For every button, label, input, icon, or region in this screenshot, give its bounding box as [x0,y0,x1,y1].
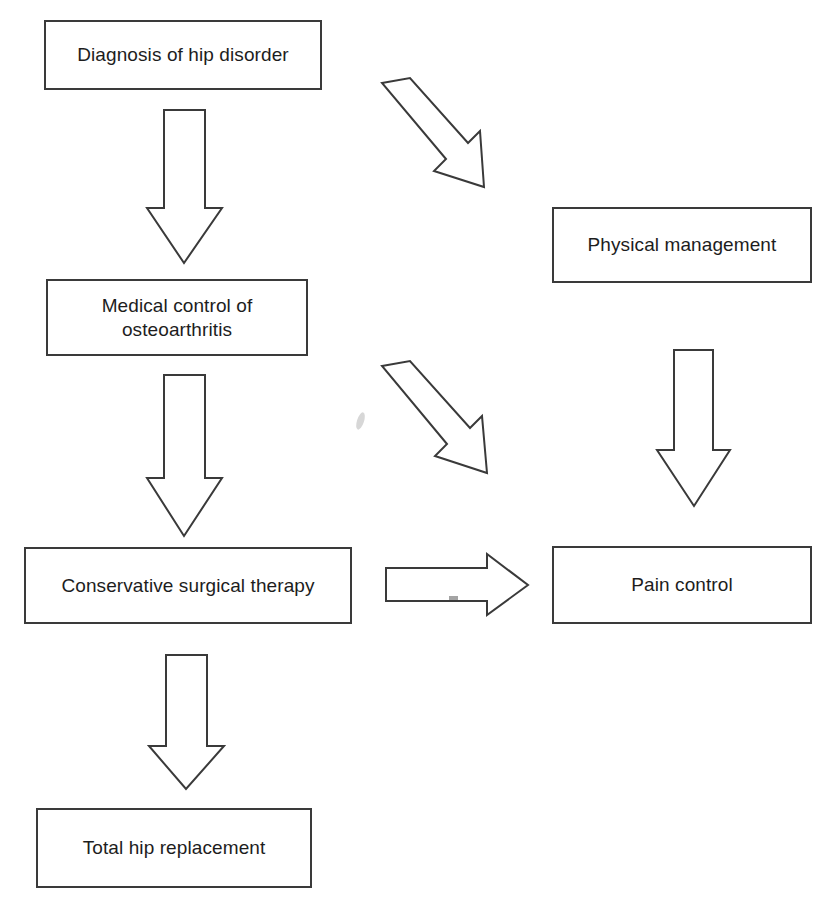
arrow-physical-management-to-pain-control [657,350,730,506]
arrow-conservative-surgical-therapy-to-pain-control [386,554,528,615]
flowchart-diagram: Diagnosis of hip disorder Physical manag… [0,0,836,920]
node-total-hip-replacement: Total hip replacement [36,808,312,888]
arrow-conservative-surgical-therapy-to-total-hip-replacement [149,655,224,789]
node-conservative-surgical-therapy-label: Conservative surgical therapy [61,574,314,597]
node-diagnosis-label: Diagnosis of hip disorder [77,43,289,66]
arrow-medical-control-to-conservative-surgical-therapy [147,375,222,536]
arrow-diagnosis-to-physical-management [382,78,484,187]
node-physical-management-label: Physical management [588,233,777,256]
scan-artifact-speck [354,411,366,430]
node-pain-control: Pain control [552,546,812,624]
arrow-medical-control-to-pain-control [382,361,487,473]
node-total-hip-replacement-label: Total hip replacement [83,836,266,859]
node-diagnosis: Diagnosis of hip disorder [44,20,322,90]
arrow-diagnosis-to-medical-control [147,110,222,263]
node-medical-control: Medical control of osteoarthritis [46,279,308,356]
node-physical-management: Physical management [552,207,812,283]
scan-artifact-mark [449,596,458,600]
node-medical-control-label: Medical control of osteoarthritis [102,294,253,340]
node-pain-control-label: Pain control [631,573,733,596]
arrow-layer [0,0,836,920]
node-conservative-surgical-therapy: Conservative surgical therapy [24,547,352,624]
